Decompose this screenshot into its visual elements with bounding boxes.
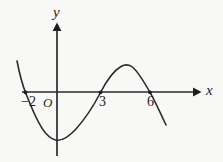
x-axis-arrow-icon — [193, 88, 202, 97]
graph-figure: · · ·· · ·· · ······· ·· · · ·· · · · ··… — [0, 0, 223, 162]
origin-label: O — [43, 95, 52, 111]
coordinate-plane-svg — [0, 0, 223, 162]
x-tick-label-six: 6 — [147, 94, 154, 110]
cubic-curve-path — [17, 61, 166, 140]
x-tick-label-three: 3 — [99, 94, 106, 110]
y-axis-arrow-icon — [53, 23, 62, 32]
x-axis-label: x — [206, 82, 213, 99]
y-axis-label: y — [53, 4, 60, 21]
x-tick-label-neg-two: −2 — [21, 94, 36, 110]
